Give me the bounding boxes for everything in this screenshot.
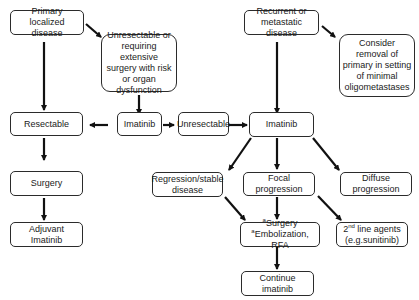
node-label: Unresectable or requiring extensive surg… — [104, 30, 174, 96]
node-label: Consider removal of primary in setting o… — [342, 38, 412, 93]
surgery-option-line2: aEmbolization, RFA — [243, 229, 317, 251]
node-surgery: Surgery — [10, 171, 83, 196]
node-diffuse-progression: Diffuse progression — [340, 172, 412, 196]
node-label: Adjuvant Imatinib — [13, 224, 80, 246]
node-label: Focal progression — [246, 173, 312, 195]
node-continue-imatinib: Continue imatinib — [241, 271, 314, 296]
node-imatinib-left: Imatinib — [117, 112, 162, 136]
node-adjuvant-imatinib: Adjuvant Imatinib — [10, 222, 83, 247]
node-label: Embolization, RFA — [255, 229, 309, 250]
node-label: Primary localized disease — [13, 6, 81, 39]
node-label: Surgery — [266, 218, 298, 228]
node-imatinib-right: Imatinib — [249, 112, 314, 137]
node-second-line-agents: 2nd line agents (e.g.sunitinib) — [336, 222, 408, 247]
node-unresectable: Unresectable — [178, 112, 229, 136]
node-label: Resectable — [24, 119, 69, 130]
node-label: Surgery — [31, 178, 63, 189]
node-resectable: Resectable — [10, 112, 83, 136]
node-label: line agents — [355, 224, 401, 234]
node-label: Recurrent or metastatic disease — [247, 6, 316, 39]
second-line-example: (e.g.sunitinib) — [345, 235, 399, 246]
node-unresectable-extensive-surgery: Unresectable or requiring extensive surg… — [101, 34, 177, 92]
node-focal-progression: Focal progression — [243, 172, 315, 196]
node-label: Continue imatinib — [244, 273, 311, 295]
node-primary-localized-disease: Primary localized disease — [10, 10, 84, 35]
second-line-line1: 2nd line agents — [343, 224, 401, 235]
node-label: Diffuse progression — [343, 173, 409, 195]
node-label: Imatinib — [124, 119, 156, 130]
node-recurrent-metastatic-disease: Recurrent or metastatic disease — [244, 10, 319, 35]
ordinal-suffix: nd — [348, 223, 355, 229]
surgery-option-line1: aSurgery — [263, 218, 298, 229]
node-label: Unresectable — [177, 119, 230, 130]
node-label: Regression/stable disease — [151, 174, 223, 196]
node-regression-stable-disease: Regression/stable disease — [152, 172, 223, 197]
node-surgery-embolization-rfa: aSurgery aEmbolization, RFA — [240, 222, 320, 247]
node-consider-removal-primary: Consider removal of primary in setting o… — [339, 34, 415, 97]
node-label: Imatinib — [266, 119, 298, 130]
